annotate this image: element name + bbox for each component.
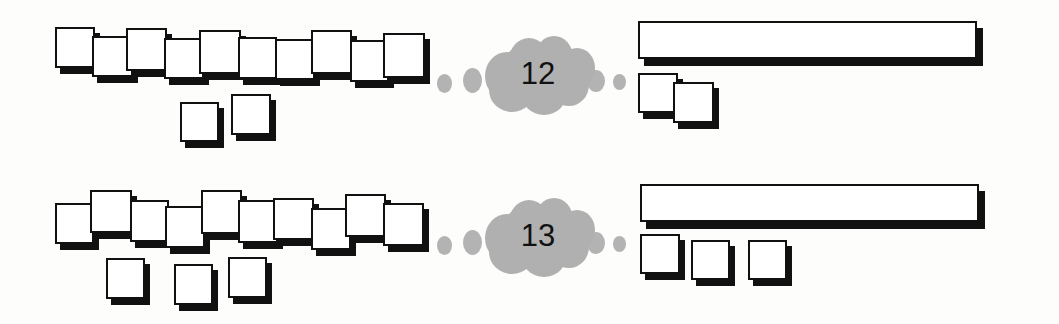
cloud-trail-dot	[437, 74, 452, 93]
unit-cube	[201, 190, 242, 234]
unit-cube	[275, 39, 315, 80]
unit-cube	[164, 38, 204, 79]
ten-rod	[640, 184, 979, 222]
unit-cube	[673, 82, 714, 123]
unit-cube	[55, 203, 94, 244]
unit-cube	[748, 240, 787, 280]
worksheet-row-2: 13	[0, 162, 1059, 324]
unit-cube	[106, 258, 145, 299]
row-1-answer-cloud: 12	[435, 30, 625, 120]
unit-cube	[638, 73, 678, 113]
cloud-trail-dot	[437, 236, 452, 255]
unit-cube	[180, 102, 219, 142]
unit-cube	[383, 203, 424, 246]
unit-cube	[691, 240, 730, 280]
unit-cube	[55, 27, 95, 68]
worksheet-row-1: 12	[0, 0, 1059, 162]
cloud-trail-dot	[613, 74, 626, 90]
unit-cube	[273, 198, 314, 240]
ten-rod	[638, 21, 977, 59]
unit-cube	[165, 206, 205, 248]
unit-cube	[311, 30, 352, 74]
row-1-answer-number: 12	[490, 58, 586, 89]
worksheet-canvas: 12	[0, 0, 1059, 324]
unit-cube	[640, 234, 680, 274]
cloud-trail-dot	[463, 68, 482, 93]
cloud-trail-dot	[613, 236, 626, 252]
unit-cube	[90, 190, 132, 233]
unit-cube	[345, 194, 386, 237]
unit-cube	[228, 257, 267, 298]
unit-cube	[231, 94, 271, 135]
unit-cube	[126, 28, 167, 71]
row-2-answer-number: 13	[490, 220, 586, 251]
unit-cube	[238, 37, 277, 79]
cloud-trail-dot	[463, 230, 482, 255]
unit-cube	[174, 264, 213, 305]
unit-cube	[130, 200, 169, 242]
unit-cube	[199, 30, 241, 74]
unit-cube	[238, 200, 278, 243]
unit-cube	[383, 33, 425, 78]
row-2-answer-cloud: 13	[435, 192, 625, 282]
